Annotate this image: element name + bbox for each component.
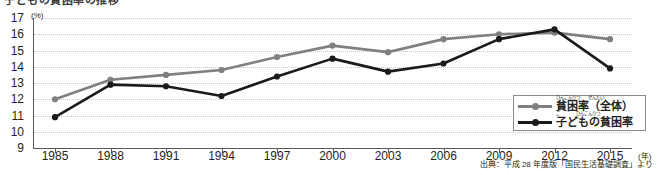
- legend-ruby-children: こ ひんこんりつ: [556, 112, 600, 117]
- x-axis-tick-label: 1994: [192, 150, 252, 162]
- legend-text-total: 貧困率（全体）: [556, 100, 633, 112]
- chart-legend: ひんこんりつ ぜんたい 貧困率（全体） こ ひんこんりつ 子どもの貧困率: [513, 95, 646, 131]
- source-note: 出典：平成 28 年度版「国民生活基礎調査」より: [480, 160, 653, 169]
- data-point: [52, 114, 58, 120]
- x-axis-tick-label: 1988: [81, 150, 141, 162]
- figure-title-truncated: 子どもの貧困率の推移: [4, 0, 234, 7]
- y-axis-tick-label: 16: [2, 28, 24, 40]
- data-point: [163, 72, 169, 78]
- x-axis-tick-label: 2000: [303, 150, 363, 162]
- x-axis-tick-label: 1985: [25, 150, 85, 162]
- data-point: [607, 36, 613, 42]
- y-axis-tick-label: 11: [2, 110, 24, 122]
- y-axis-tick-label: 12: [2, 93, 24, 105]
- data-point: [496, 36, 502, 42]
- data-point: [107, 82, 113, 88]
- data-point: [385, 69, 391, 75]
- legend-label-total: ひんこんりつ ぜんたい 貧困率（全体）: [556, 101, 633, 112]
- data-point: [329, 56, 335, 62]
- y-axis-tick-label: 14: [2, 61, 24, 73]
- data-point: [440, 36, 446, 42]
- legend-ruby-total: ひんこんりつ ぜんたい: [556, 96, 604, 101]
- figure-title-text: 子どもの貧困率の推移: [4, 0, 234, 6]
- legend-text-children: 子どもの貧困率: [556, 116, 633, 128]
- y-axis-tick-label: 9: [2, 142, 24, 154]
- legend-item-children[interactable]: こ ひんこんりつ 子どもの貧困率: [518, 114, 641, 130]
- data-point: [385, 49, 391, 55]
- chart-figure: 子どもの貧困率の推移 (%) (年) 17161514131211109 198…: [0, 0, 661, 175]
- x-axis-tick-label: 1997: [247, 150, 307, 162]
- x-axis-tick-label: 2003: [358, 150, 418, 162]
- x-axis-tick-label: 1991: [136, 150, 196, 162]
- legend-swatch-total: [518, 101, 552, 111]
- data-point: [274, 54, 280, 60]
- y-axis-tick-label: 17: [2, 12, 24, 24]
- data-point: [329, 43, 335, 49]
- legend-swatch-children: [518, 117, 552, 127]
- data-point: [218, 67, 224, 73]
- data-point: [274, 73, 280, 79]
- y-axis-tick-label: 15: [2, 45, 24, 57]
- x-axis-tick-label: 2006: [414, 150, 474, 162]
- data-point: [551, 26, 557, 32]
- data-point: [607, 65, 613, 71]
- data-point: [440, 60, 446, 66]
- y-axis-tick-label: 13: [2, 77, 24, 89]
- legend-label-children: こ ひんこんりつ 子どもの貧困率: [556, 117, 633, 128]
- data-point: [52, 96, 58, 102]
- y-axis-tick-label: 10: [2, 126, 24, 138]
- data-point: [163, 83, 169, 89]
- data-point: [218, 93, 224, 99]
